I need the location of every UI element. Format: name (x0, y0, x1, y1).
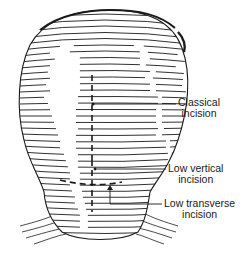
uterus-outline (19, 10, 188, 240)
low-transverse-incision-label: Low transverse incision (164, 198, 235, 220)
label-line: incision (168, 174, 223, 185)
label-line: incision (164, 209, 235, 220)
low-vertical-incision-label: Low vertical incision (168, 163, 223, 185)
label-line: incision (178, 108, 220, 119)
classical-incision-label: Classical incision (178, 97, 220, 119)
